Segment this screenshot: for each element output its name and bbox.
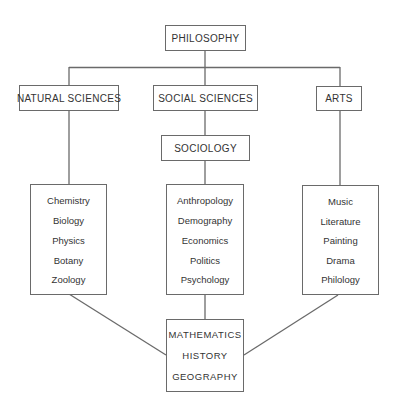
social-sciences-list: Anthropology Demography Economics Politi…: [166, 184, 244, 295]
subject-mathematics: MATHEMATICS: [168, 330, 241, 340]
subject-anthropology: Anthropology: [177, 196, 233, 206]
social-sciences-label: SOCIAL SCIENCES: [158, 93, 253, 104]
subject-biology: Biology: [53, 216, 84, 226]
sociology-box: SOCIOLOGY: [161, 135, 250, 161]
philosophy-box: PHILOSOPHY: [165, 25, 246, 51]
sociology-label: SOCIOLOGY: [174, 143, 237, 154]
arts-box: ARTS: [316, 86, 362, 111]
subject-politics: Politics: [190, 256, 220, 266]
natural-sciences-list: Chemistry Biology Physics Botany Zoology: [30, 184, 107, 295]
philosophy-label: PHILOSOPHY: [171, 33, 239, 44]
subject-botany: Botany: [54, 256, 84, 266]
natural-sciences-box: NATURAL SCIENCES: [19, 85, 119, 111]
subject-painting: Painting: [323, 236, 357, 246]
arts-label: ARTS: [325, 93, 353, 104]
subject-economics: Economics: [182, 236, 228, 246]
subject-psychology: Psychology: [181, 275, 230, 285]
subject-zoology: Zoology: [52, 275, 86, 285]
subject-philology: Philology: [321, 275, 360, 285]
subject-literature: Literature: [320, 217, 360, 227]
base-subjects-box: MATHEMATICS HISTORY GEOGRAPHY: [166, 319, 244, 392]
subject-music: Music: [328, 197, 353, 207]
natural-sciences-label: NATURAL SCIENCES: [17, 93, 121, 104]
subject-physics: Physics: [52, 236, 85, 246]
subject-history: HISTORY: [182, 351, 227, 361]
arts-list: Music Literature Painting Drama Philolog…: [302, 185, 379, 295]
subject-chemistry: Chemistry: [47, 196, 90, 206]
social-sciences-box: SOCIAL SCIENCES: [153, 85, 258, 111]
subject-geography: GEOGRAPHY: [172, 372, 238, 382]
subject-demography: Demography: [178, 216, 232, 226]
subject-drama: Drama: [326, 256, 355, 266]
